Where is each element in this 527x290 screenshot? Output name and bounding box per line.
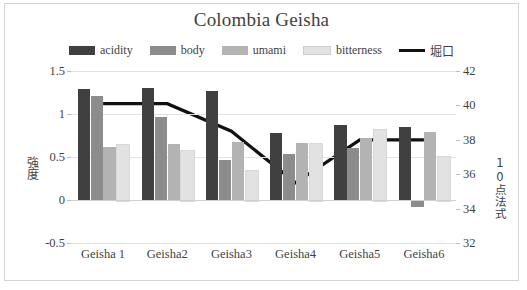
bar-bitterness-Geisha2 bbox=[180, 150, 194, 202]
y-axis-tick-right: 38 bbox=[463, 132, 476, 147]
page-bottom-artifact bbox=[0, 283, 527, 290]
y-axis-tick-right: 32 bbox=[463, 236, 476, 251]
chart-title: Colombia Geisha bbox=[5, 9, 518, 31]
y-axis-tick-right: 42 bbox=[463, 64, 476, 79]
legend-swatch-bitterness bbox=[303, 46, 331, 55]
y-axis-tickmark-right bbox=[456, 140, 460, 141]
x-axis-label: Geisha2 bbox=[135, 247, 199, 262]
x-axis-label: Geisha 1 bbox=[71, 247, 135, 262]
bar-bitterness-Geisha4 bbox=[309, 143, 323, 202]
legend-swatch-acidity bbox=[69, 46, 95, 55]
gridline bbox=[71, 243, 456, 244]
bar-umami-Geisha2 bbox=[168, 144, 180, 200]
bar-acidity-Geisha3 bbox=[206, 91, 218, 200]
bar-acidity-Geisha6 bbox=[399, 127, 411, 200]
legend-item-horiguchi[interactable]: 堀口 bbox=[399, 42, 454, 59]
y-axis-tickmark-right bbox=[456, 243, 460, 244]
bar-bitterness-Geisha3 bbox=[245, 170, 259, 202]
y-axis-tickmark-left bbox=[67, 71, 71, 72]
bar-body-Geisha2 bbox=[155, 117, 167, 200]
bar-umami-Geisha5 bbox=[360, 138, 372, 200]
bar-body-Geisha5 bbox=[347, 148, 359, 200]
bar-acidity-Geisha2 bbox=[142, 88, 154, 200]
legend-line-horiguchi bbox=[399, 49, 425, 52]
bar-body-Geisha1 bbox=[91, 96, 103, 200]
y-axis-tick-left: 0.5 bbox=[49, 150, 65, 165]
legend-label-acidity: acidity bbox=[100, 43, 133, 58]
y-axis-tickmark-left bbox=[67, 157, 71, 158]
legend-label-horiguchi: 堀口 bbox=[430, 42, 454, 59]
legend-swatch-umami bbox=[222, 46, 248, 55]
bar-bitterness-Geisha5 bbox=[373, 129, 387, 202]
chart-container: Colombia Geisha acidity body umami bitte… bbox=[4, 3, 519, 281]
zero-baseline bbox=[71, 200, 456, 201]
x-axis-label: Geisha4 bbox=[264, 247, 328, 262]
plot-area: 1.510.50-0.5424038363432Geisha 1Geisha2G… bbox=[71, 71, 456, 243]
bar-umami-Geisha3 bbox=[232, 142, 244, 200]
bar-umami-Geisha1 bbox=[103, 147, 115, 200]
y-axis-tickmark-right bbox=[456, 105, 460, 106]
y-axis-tickmark-right bbox=[456, 174, 460, 175]
bar-umami-Geisha4 bbox=[296, 143, 308, 200]
y-axis-tickmark-left bbox=[67, 243, 71, 244]
y-axis-tick-left: 0 bbox=[59, 193, 65, 208]
y-axis-tickmark-left bbox=[67, 114, 71, 115]
y-axis-tick-right: 36 bbox=[463, 167, 476, 182]
y-axis-tickmark-right bbox=[456, 71, 460, 72]
bar-body-Geisha4 bbox=[283, 154, 295, 200]
x-axis-label: Geisha3 bbox=[199, 247, 263, 262]
bar-body-Geisha6 bbox=[411, 200, 423, 207]
y-axis-title-left: 強度 bbox=[23, 156, 40, 180]
y-axis-tick-left: 1 bbox=[59, 107, 65, 122]
bar-acidity-Geisha5 bbox=[334, 125, 346, 200]
gridline bbox=[71, 71, 456, 72]
y-axis-title-right: 10点法式 bbox=[492, 156, 508, 220]
y-axis-tick-left: -0.5 bbox=[45, 236, 65, 251]
bar-bitterness-Geisha6 bbox=[437, 156, 451, 202]
gridline bbox=[71, 114, 456, 115]
legend-label-bitterness: bitterness bbox=[336, 43, 382, 58]
y-axis-tick-right: 40 bbox=[463, 98, 476, 113]
bar-acidity-Geisha4 bbox=[270, 133, 282, 200]
bar-body-Geisha3 bbox=[219, 160, 231, 200]
y-axis-tick-left: 1.5 bbox=[49, 64, 65, 79]
bar-umami-Geisha6 bbox=[424, 132, 436, 200]
y-axis-tickmark-right bbox=[456, 209, 460, 210]
legend-label-body: body bbox=[181, 43, 205, 58]
legend-swatch-body bbox=[150, 46, 176, 55]
x-axis-label: Geisha6 bbox=[392, 247, 456, 262]
bar-acidity-Geisha1 bbox=[78, 89, 90, 200]
y-axis-tick-right: 34 bbox=[463, 201, 476, 216]
bar-bitterness-Geisha1 bbox=[116, 144, 130, 202]
legend-item-acidity[interactable]: acidity bbox=[69, 43, 133, 58]
legend-item-umami[interactable]: umami bbox=[222, 43, 286, 58]
legend-item-bitterness[interactable]: bitterness bbox=[303, 43, 382, 58]
legend-label-umami: umami bbox=[253, 43, 286, 58]
legend-item-body[interactable]: body bbox=[150, 43, 205, 58]
chart-legend: acidity body umami bitterness 堀口 bbox=[5, 42, 518, 59]
x-axis-label: Geisha5 bbox=[328, 247, 392, 262]
